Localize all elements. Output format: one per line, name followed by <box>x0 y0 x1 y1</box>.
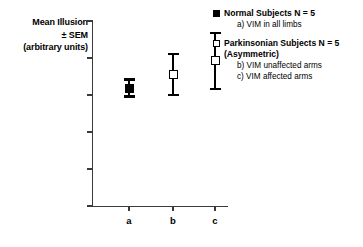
error-bar-cap-upper <box>124 78 135 80</box>
marker-filled-square <box>125 84 134 93</box>
legend-item: b) VIM unaffected arms <box>237 60 363 72</box>
chart-figure: Mean Illusion ± SEM (arbitrary units) 05… <box>0 0 363 247</box>
x-tick-mark <box>172 206 173 211</box>
plot-area: 0510152025 abc <box>0 0 230 247</box>
error-bar-cap-upper <box>168 53 179 55</box>
x-axis-line <box>92 206 228 207</box>
legend-group: Normal Subjects N = 5a) VIM in all limbs <box>213 8 363 31</box>
y-axis-line <box>92 20 93 207</box>
legend-item: c) VIM affected arms <box>237 71 363 83</box>
legend-group-subtitle: (Asymmetric) <box>224 49 363 60</box>
legend-swatch-filled-square <box>213 10 220 17</box>
legend-group-header: Parkinsonian Subjects N = 5 <box>213 38 363 49</box>
x-tick-mark <box>128 206 129 211</box>
y-tick-mark <box>87 94 92 95</box>
marker-open-square <box>169 70 178 79</box>
error-bar-cap-lower <box>168 94 179 96</box>
x-tick-label: c <box>205 215 225 226</box>
legend: Normal Subjects N = 5a) VIM in all limbs… <box>213 8 363 90</box>
legend-group: Parkinsonian Subjects N = 5(Asymmetric)b… <box>213 38 363 83</box>
legend-group-title: Normal Subjects N = 5 <box>224 8 315 19</box>
y-tick-mark <box>87 131 92 132</box>
x-tick-label: b <box>163 215 183 226</box>
y-tick-mark <box>87 57 92 58</box>
x-tick-label: a <box>119 215 139 226</box>
legend-item: a) VIM in all limbs <box>237 19 363 31</box>
legend-swatch-open-square <box>213 40 220 47</box>
x-tick-mark <box>214 206 215 211</box>
legend-group-header: Normal Subjects N = 5 <box>213 8 363 19</box>
error-bar-cap-lower <box>124 95 135 97</box>
y-tick-mark <box>87 20 92 21</box>
legend-group-title: Parkinsonian Subjects N = 5 <box>224 38 339 49</box>
y-tick-mark <box>87 205 92 206</box>
y-tick-mark <box>87 168 92 169</box>
